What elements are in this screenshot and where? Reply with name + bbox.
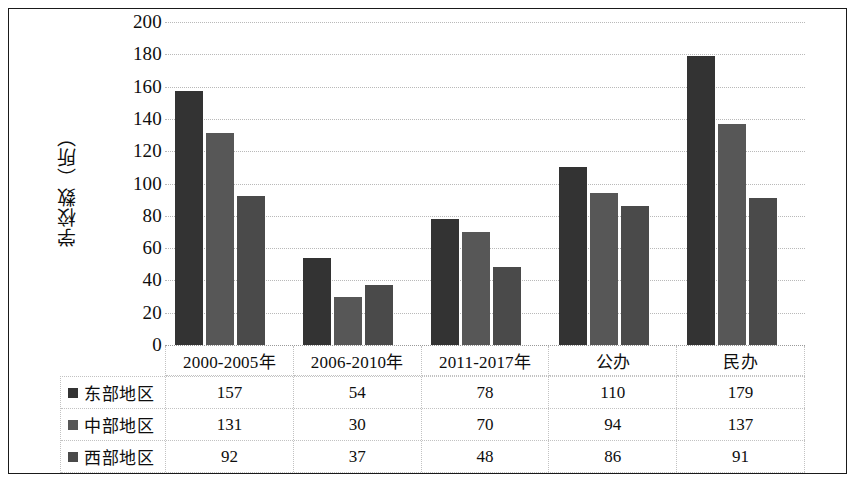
bar-group <box>293 22 421 345</box>
bar <box>365 285 393 345</box>
y-axis-tick-labels: 200180160140120100806040200 <box>96 0 162 367</box>
y-axis-tick: 80 <box>96 205 162 227</box>
y-axis-title-label: 学校数（所） <box>54 127 81 247</box>
table-cell-value: 78 <box>422 377 550 408</box>
table-cell-value: 110 <box>549 377 677 408</box>
bar <box>462 232 490 345</box>
y-axis-tick: 100 <box>96 173 162 195</box>
bar <box>559 167 587 345</box>
table-cell-value: 37 <box>294 441 422 472</box>
legend-label: 中部地区 <box>84 412 154 437</box>
bar <box>749 198 777 345</box>
table-cell-value: 131 <box>166 409 294 440</box>
bar <box>206 133 234 345</box>
x-axis-category-label: 2011-2017年 <box>422 346 550 376</box>
table-cell-value: 70 <box>422 409 550 440</box>
bar <box>493 267 521 345</box>
bar-series-container <box>165 22 805 345</box>
x-axis-category-label: 2006-2010年 <box>294 346 422 376</box>
legend-entry[interactable]: 西部地区 <box>61 441 166 472</box>
x-axis-category-labels: 2000-2005年2006-2010年2011-2017年公办民办 <box>165 346 805 376</box>
bar-group <box>549 22 677 345</box>
legend-entry[interactable]: 东部地区 <box>61 377 166 408</box>
y-axis-tick: 200 <box>96 11 162 33</box>
table-cell-value: 48 <box>422 441 550 472</box>
y-axis-tick: 60 <box>96 237 162 259</box>
bar <box>334 297 362 345</box>
table-cell-value: 91 <box>677 441 805 472</box>
bar-group <box>421 22 549 345</box>
x-axis-category-label: 民办 <box>677 346 805 376</box>
bar <box>590 193 618 345</box>
bar <box>687 56 715 345</box>
table-cell-value: 179 <box>677 377 805 408</box>
data-table: 东部地区1575478110179中部地区131307094137西部地区923… <box>60 376 805 473</box>
y-axis-tick: 20 <box>96 302 162 324</box>
table-row: 东部地区1575478110179 <box>61 377 805 409</box>
y-axis-tick: 40 <box>96 269 162 291</box>
table-cell-value: 137 <box>677 409 805 440</box>
table-row: 中部地区131307094137 <box>61 409 805 441</box>
plot-area <box>165 22 805 345</box>
bar <box>431 219 459 345</box>
bar <box>175 91 203 345</box>
table-cell-value: 157 <box>166 377 294 408</box>
bar <box>303 258 331 345</box>
table-cell-value: 54 <box>294 377 422 408</box>
x-axis-category-label: 公办 <box>549 346 677 376</box>
bar <box>718 124 746 345</box>
bar <box>237 196 265 345</box>
legend-entry[interactable]: 中部地区 <box>61 409 166 440</box>
bar-group <box>677 22 805 345</box>
legend-swatch-icon <box>68 420 78 430</box>
y-axis-tick: 0 <box>96 334 162 356</box>
y-axis-title: 学校数（所） <box>52 92 82 282</box>
y-axis-tick: 180 <box>96 43 162 65</box>
y-axis-tick: 120 <box>96 140 162 162</box>
legend-label: 西部地区 <box>84 444 154 469</box>
legend-swatch-icon <box>68 388 78 398</box>
table-cell-value: 92 <box>166 441 294 472</box>
y-axis-tick: 160 <box>96 76 162 98</box>
table-row: 西部地区9237488691 <box>61 441 805 473</box>
legend-swatch-icon <box>68 452 78 462</box>
x-axis-category-label: 2000-2005年 <box>166 346 294 376</box>
table-cell-value: 30 <box>294 409 422 440</box>
chart-figure: 学校数（所） 200180160140120100806040200 2000-… <box>0 0 855 482</box>
table-cell-value: 86 <box>549 441 677 472</box>
legend-label: 东部地区 <box>84 380 154 405</box>
table-cell-value: 94 <box>549 409 677 440</box>
bar-group <box>165 22 293 345</box>
y-axis-tick: 140 <box>96 108 162 130</box>
bar <box>621 206 649 345</box>
